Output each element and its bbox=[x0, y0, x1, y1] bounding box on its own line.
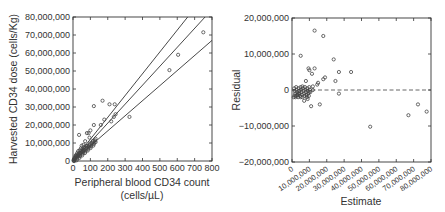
right-x-ticks: 010,000,00020,000,00030,000,00040,000,00… bbox=[277, 18, 435, 193]
left-x-tick-label: 0 bbox=[70, 163, 75, 173]
left-x-ticks: 0100200300400500600700800 bbox=[70, 17, 219, 173]
left-y-tick-label: 10,000,000 bbox=[25, 138, 70, 148]
left-points bbox=[72, 31, 205, 163]
data-point bbox=[407, 114, 410, 117]
data-point bbox=[337, 70, 340, 73]
data-point bbox=[310, 105, 313, 108]
data-point bbox=[84, 140, 87, 143]
left-chart: 010,000,00020,000,00030,000,00040,000,00… bbox=[7, 12, 220, 201]
left-y-ticks: 010,000,00020,000,00030,000,00040,000,00… bbox=[25, 12, 212, 166]
data-point bbox=[128, 115, 131, 118]
data-point bbox=[311, 85, 314, 88]
data-point bbox=[299, 54, 302, 57]
data-point bbox=[313, 67, 316, 70]
left-y-tick-label: 50,000,000 bbox=[25, 66, 70, 76]
left-x-tick-label: 400 bbox=[135, 163, 150, 173]
right-y-tick-label: 0 bbox=[284, 85, 289, 95]
data-point bbox=[108, 103, 111, 106]
data-point bbox=[177, 53, 180, 56]
data-point bbox=[110, 120, 113, 123]
left-y-tick-label: 80,000,000 bbox=[25, 12, 70, 22]
left-x-tick-label: 700 bbox=[187, 163, 202, 173]
left-y-tick-label: 30,000,000 bbox=[25, 102, 70, 112]
data-point bbox=[92, 105, 95, 108]
left-x-tick-label: 600 bbox=[170, 163, 185, 173]
data-point bbox=[304, 79, 307, 82]
right-y-tick-label: −20,000,000 bbox=[239, 157, 289, 167]
left-x-tick-label: 500 bbox=[152, 163, 167, 173]
left-x-tick-label: 100 bbox=[83, 163, 98, 173]
data-point bbox=[101, 99, 104, 102]
data-point bbox=[349, 70, 352, 73]
data-point bbox=[318, 103, 321, 106]
data-point bbox=[303, 99, 306, 102]
left-y-tick-label: 40,000,000 bbox=[25, 84, 70, 94]
right-y-tick-label: −10,000,000 bbox=[239, 121, 289, 131]
data-point bbox=[425, 110, 428, 113]
left-y-tick-label: 20,000,000 bbox=[25, 120, 70, 130]
data-point bbox=[322, 34, 325, 37]
data-point bbox=[310, 72, 313, 75]
right-chart: −20,000,000−10,000,000010,000,00020,000,… bbox=[230, 13, 434, 207]
right-x-axis-label: Estimate bbox=[341, 195, 382, 207]
figure: 010,000,00020,000,00030,000,00040,000,00… bbox=[0, 0, 445, 212]
left-x-tick-label: 800 bbox=[204, 163, 219, 173]
data-point bbox=[416, 103, 419, 106]
right-y-tick-label: 20,000,000 bbox=[244, 13, 289, 23]
data-point bbox=[88, 136, 91, 139]
right-y-tick-label: 10,000,000 bbox=[244, 49, 289, 59]
left-x-axis-label: Peripheral blood CD34 count bbox=[75, 176, 210, 188]
left-x-tick-label: 200 bbox=[100, 163, 115, 173]
left-y-tick-label: 60,000,000 bbox=[25, 48, 70, 58]
data-point bbox=[168, 69, 171, 72]
right-y-axis-label: Residual bbox=[230, 70, 242, 111]
data-point bbox=[334, 79, 337, 82]
data-point bbox=[77, 133, 80, 136]
data-point bbox=[369, 125, 372, 128]
right-points bbox=[292, 29, 428, 128]
data-point bbox=[337, 92, 340, 95]
left-y-tick-label: 70,000,000 bbox=[25, 30, 70, 40]
data-point bbox=[92, 123, 95, 126]
left-x-axis-label-units: (cells/µL) bbox=[121, 189, 164, 201]
data-point bbox=[332, 58, 335, 61]
data-point bbox=[313, 29, 316, 32]
left-x-tick-label: 300 bbox=[118, 163, 133, 173]
left-y-tick-label: 0 bbox=[65, 156, 70, 166]
data-point bbox=[113, 103, 116, 106]
data-point bbox=[202, 31, 205, 34]
left-y-axis-label: Harvested CD34 dose (cells/Kg) bbox=[7, 14, 19, 164]
